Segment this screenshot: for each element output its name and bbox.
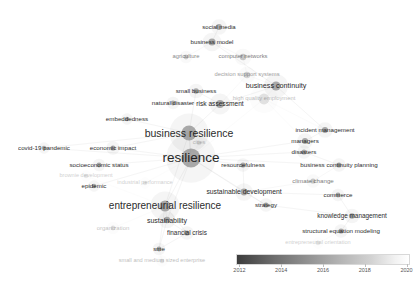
- node-label[interactable]: strategy: [255, 202, 277, 208]
- node-label[interactable]: cities: [193, 140, 206, 146]
- node-label[interactable]: natural disaster: [152, 100, 194, 106]
- node-label[interactable]: covid-19 pandemic: [18, 145, 70, 151]
- node-label[interactable]: business model: [191, 39, 234, 45]
- node-label[interactable]: knowledge management: [317, 213, 387, 219]
- legend-tick-label: 2014: [275, 267, 287, 273]
- color-legend: 20122014201620182020: [236, 254, 410, 279]
- node-label[interactable]: resourcefulness: [221, 162, 265, 168]
- node-label[interactable]: entrepreneurial orientation: [285, 240, 350, 246]
- node-label[interactable]: embeddedness: [106, 116, 148, 122]
- node-label[interactable]: climate change: [292, 178, 334, 184]
- node-label[interactable]: high quality employment: [233, 96, 296, 102]
- node-label[interactable]: brownie development: [59, 173, 112, 179]
- node-label[interactable]: resilience: [162, 151, 219, 165]
- legend-tick-label: 2012: [233, 267, 245, 273]
- node-label[interactable]: socioeconomic status: [69, 162, 128, 168]
- node-label[interactable]: commerce: [324, 192, 353, 198]
- node-label[interactable]: business continuity planning: [300, 162, 377, 168]
- label-layer: social mediabusiness modelagriculturecom…: [0, 0, 418, 290]
- node-label[interactable]: financial crisis: [167, 230, 207, 236]
- node-label[interactable]: organization: [97, 225, 130, 231]
- node-label[interactable]: agriculture: [172, 54, 199, 60]
- node-label[interactable]: disasters: [292, 149, 317, 155]
- node-label[interactable]: sme: [153, 246, 165, 252]
- node-label[interactable]: small business: [176, 88, 217, 94]
- node-label[interactable]: incident management: [295, 127, 354, 133]
- legend-tick-label: 2018: [359, 267, 371, 273]
- legend-tick-label: 2020: [400, 267, 412, 273]
- node-label[interactable]: entrepreneurial resilience: [109, 201, 221, 211]
- node-label[interactable]: small and medium sized enterprise: [119, 258, 205, 264]
- node-label[interactable]: managers: [291, 138, 319, 144]
- node-label[interactable]: business resilience: [145, 128, 234, 139]
- network-visualization-canvas[interactable]: social mediabusiness modelagriculturecom…: [0, 0, 418, 290]
- node-label[interactable]: industrial performance: [117, 180, 172, 186]
- legend-tick-label: 2016: [317, 267, 329, 273]
- node-label[interactable]: social media: [202, 24, 235, 30]
- node-label[interactable]: sustainable development: [206, 189, 281, 196]
- node-label[interactable]: computer networks: [219, 54, 268, 60]
- node-label[interactable]: sustainability: [147, 217, 187, 224]
- color-legend-ticks: 20122014201620182020: [236, 267, 410, 279]
- node-label[interactable]: economic impact: [90, 145, 136, 151]
- node-label[interactable]: decision support systems: [214, 72, 279, 78]
- node-label[interactable]: structural equation modeling: [302, 228, 380, 234]
- node-label[interactable]: business continuity: [246, 82, 307, 89]
- node-label[interactable]: epidemic: [82, 183, 107, 189]
